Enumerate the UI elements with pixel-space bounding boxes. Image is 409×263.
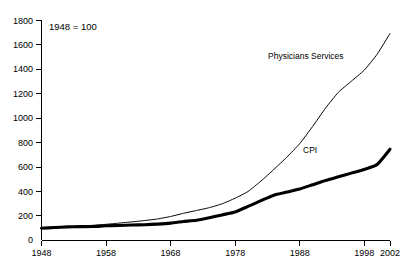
y-tick-label-600: 600 [18,162,33,172]
x-tick-label-1978: 1978 [225,248,245,258]
y-tick-label-1600: 1600 [13,40,33,50]
y-tick-label-1400: 1400 [13,64,33,74]
x-axis: 1948 1958 1968 1978 1988 1998 2002 [31,241,400,259]
y-tick-label-1000: 1000 [13,113,33,123]
y-tick-label-200: 200 [18,211,33,221]
x-tick-label-1948: 1948 [31,248,51,258]
y-tick-label-800: 800 [18,138,33,148]
y-axis: 1800 1600 1400 1200 1000 800 600 400 200… [13,16,42,246]
x-tick-label-1998: 1998 [354,248,374,258]
y-tick-label-400: 400 [18,187,33,197]
y-tick-label-0: 0 [28,235,33,245]
series-line-physicians-services [42,33,391,228]
y-tick-label-1800: 1800 [13,16,33,26]
series-line-cpi [42,149,391,228]
x-tick-label-2002: 2002 [380,248,400,258]
base-year-note: 1948 = 100 [49,21,97,32]
chart-container: 1800 1600 1400 1200 1000 800 600 400 200… [0,0,409,263]
line-chart: 1800 1600 1400 1200 1000 800 600 400 200… [0,0,409,263]
x-tick-label-1988: 1988 [290,248,310,258]
x-tick-label-1968: 1968 [161,248,181,258]
y-tick-label-1200: 1200 [13,89,33,99]
x-tick-label-1958: 1958 [96,248,116,258]
series-label-cpi: CPI [303,145,317,155]
series-label-physicians-services: Physicians Services [268,51,344,61]
